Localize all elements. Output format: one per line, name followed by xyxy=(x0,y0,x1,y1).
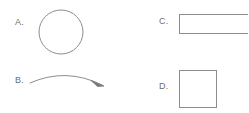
circle-outline-shape[interactable] xyxy=(38,9,86,57)
square-icon xyxy=(180,71,217,108)
option-label-a: A. xyxy=(15,17,24,27)
wide-rectangle-shape[interactable] xyxy=(177,12,248,36)
diagram-canvas: A. B. C. D. xyxy=(0,0,248,113)
option-label-c: C. xyxy=(159,16,168,26)
curved-arrow-shape[interactable] xyxy=(28,73,110,97)
arrowhead-icon xyxy=(91,81,104,87)
square-shape[interactable] xyxy=(177,68,221,112)
rectangle-icon xyxy=(180,15,249,34)
circle-icon xyxy=(39,10,83,54)
option-label-b: B. xyxy=(15,75,24,85)
option-label-d: D. xyxy=(159,81,168,91)
